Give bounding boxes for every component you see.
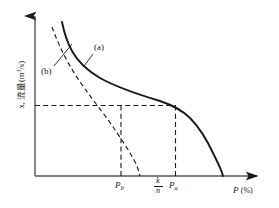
curve-label-a: (a) bbox=[94, 43, 104, 52]
leader-line-b bbox=[54, 44, 72, 66]
y-axis-unit-exponent: 3 bbox=[16, 70, 22, 73]
curve-label-b: (b) bbox=[41, 67, 52, 76]
plot-area bbox=[0, 0, 279, 208]
chart-figure: x, 流量(m3/s) (a) (b) Pb k n Pa P (%) bbox=[0, 0, 279, 208]
x-tick-label-k-over-n: k n bbox=[150, 177, 166, 195]
x-tick-label-pb: Pb bbox=[115, 181, 124, 192]
x-tick-pa-subscript: a bbox=[175, 184, 178, 191]
y-axis-label-text: x, 流量 bbox=[16, 82, 26, 109]
curve-a bbox=[62, 22, 223, 176]
leader-line-a bbox=[84, 54, 93, 66]
x-axis-label: P (%) bbox=[233, 186, 253, 195]
x-tick-kn-numerator: k bbox=[150, 177, 166, 186]
y-axis-unit-tail: /s) bbox=[16, 61, 26, 70]
x-tick-label-pa: Pa bbox=[169, 181, 178, 192]
x-axis-label-symbol: P bbox=[233, 185, 239, 195]
x-axis-label-unit: (%) bbox=[241, 186, 253, 195]
x-tick-kn-denominator: n bbox=[150, 187, 166, 196]
x-tick-pb-subscript: b bbox=[121, 184, 124, 191]
y-axis-unit-base: (m bbox=[16, 73, 26, 82]
y-axis-label: x, 流量(m3/s) bbox=[16, 43, 26, 127]
